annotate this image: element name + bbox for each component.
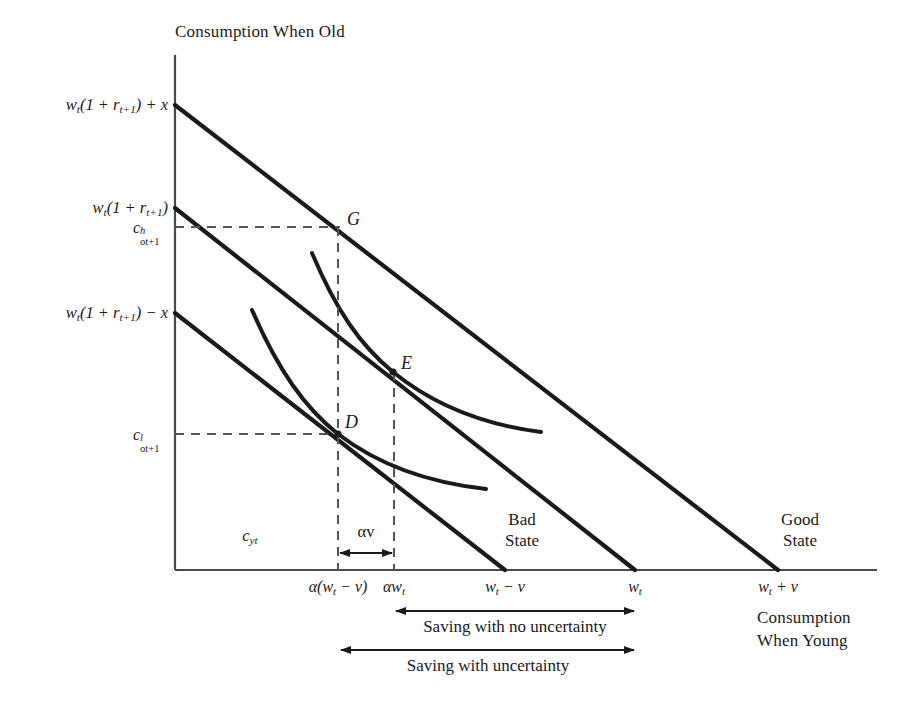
bracket-label-saving-no-uncertainty: Saving with no uncertainty bbox=[320, 617, 710, 637]
state-label-bad: Bad State bbox=[472, 510, 572, 551]
x-axis-title-line2: When Young bbox=[757, 631, 848, 651]
point-label-G: G bbox=[347, 209, 360, 230]
axes-group bbox=[175, 55, 877, 570]
y-dashed-label-c-low: clot+1 bbox=[0, 426, 170, 445]
bracket-label-saving-with-uncertainty: Saving with uncertainty bbox=[320, 656, 656, 676]
c-high-base: c bbox=[133, 219, 140, 236]
state-label-good-line1: Good bbox=[750, 510, 850, 531]
point-dot-D bbox=[334, 430, 341, 437]
x-tick-label-alpha-w: αwt bbox=[344, 578, 444, 597]
interior-label-alpha-v: αv bbox=[340, 522, 392, 541]
y-dashed-label-c-high: chot+1 bbox=[0, 219, 170, 238]
indifference-curves-group bbox=[252, 253, 541, 489]
state-label-good-line2: State bbox=[750, 531, 850, 552]
x-tick-label-w: wt bbox=[585, 578, 685, 597]
point-label-D: D bbox=[345, 412, 358, 433]
state-label-bad-line2: State bbox=[472, 531, 572, 552]
equilibrium-dots-group bbox=[334, 368, 396, 437]
y-axis-title: Consumption When Old bbox=[175, 22, 345, 42]
interior-label-c-young: cyt bbox=[220, 526, 280, 545]
consumption-diagram: Consumption When Old Consumption When Yo… bbox=[0, 0, 909, 706]
x-tick-label-w-plus-v: wt + v bbox=[718, 578, 838, 597]
indifference-curve-upper bbox=[312, 253, 541, 432]
x-tick-label-w-minus-v: wt − v bbox=[445, 578, 565, 597]
budget-line-good-state bbox=[175, 105, 778, 570]
dashed-guides-group bbox=[175, 227, 394, 570]
state-label-bad-line1: Bad bbox=[472, 510, 572, 531]
y-intercept-label-middle: wt(1 + rt+1) bbox=[0, 198, 168, 217]
budget-lines-group bbox=[175, 105, 778, 570]
y-intercept-label-high: wt(1 + rt+1) + x bbox=[0, 95, 168, 114]
indifference-curve-lower bbox=[252, 310, 486, 489]
point-label-E: E bbox=[401, 353, 412, 374]
point-dot-E bbox=[389, 368, 396, 375]
state-label-good: Good State bbox=[750, 510, 850, 551]
y-intercept-label-low: wt(1 + rt+1) − x bbox=[0, 303, 168, 322]
c-low-base: c bbox=[133, 426, 140, 443]
x-axis-title-line1: Consumption bbox=[757, 608, 851, 628]
